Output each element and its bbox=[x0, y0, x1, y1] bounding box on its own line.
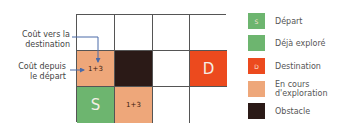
legend-item-destination: D Destination bbox=[248, 58, 321, 74]
legend-label: Déjà exploré bbox=[275, 39, 326, 48]
legend-swatch-destination: D bbox=[248, 58, 265, 74]
legend-item-obstacle: Obstacle bbox=[248, 103, 310, 119]
legend-item-start: S Départ bbox=[248, 13, 303, 29]
label-line: En cours bbox=[275, 80, 328, 89]
label-line: d'exploration bbox=[275, 89, 328, 98]
legend-swatch-exploring bbox=[248, 81, 265, 97]
legend-label: Obstacle bbox=[275, 107, 310, 116]
legend-swatch-explored bbox=[248, 35, 265, 51]
legend-item-explored: Déjà exploré bbox=[248, 35, 326, 51]
legend-swatch-start: S bbox=[248, 13, 265, 29]
legend-label: En cours d'exploration bbox=[275, 80, 328, 98]
legend-item-exploring: En cours d'exploration bbox=[248, 80, 328, 98]
legend-label: Destination bbox=[275, 62, 321, 71]
legend-swatch-obstacle bbox=[248, 103, 265, 119]
arrow-cost-to-destination bbox=[72, 37, 98, 62]
legend-label: Départ bbox=[275, 17, 303, 26]
